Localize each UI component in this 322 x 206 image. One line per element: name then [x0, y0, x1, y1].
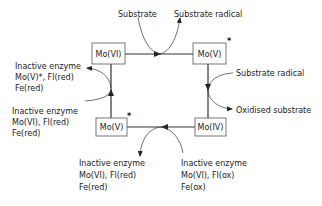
svg-text:Fe(red): Fe(red): [79, 183, 107, 192]
label-substrate-top: Substrate: [118, 10, 157, 19]
svg-text:Inactive enzyme: Inactive enzyme: [181, 159, 247, 168]
label-substrate-radical-right: Substrate radical: [236, 69, 304, 78]
node-mo-vi-top-left: Mo(VI): [92, 43, 125, 64]
svg-text:Inactive enzyme: Inactive enzyme: [79, 159, 145, 168]
curve-bottom: [140, 127, 183, 156]
label-substrate-radical-top: Substrate radical: [174, 10, 242, 19]
svg-text:Mo(VI), Fl(ox): Mo(VI), Fl(ox): [181, 171, 234, 180]
curve-top: [138, 17, 180, 54]
curve-right: [208, 73, 233, 109]
label-inactive-enzyme-left-lower: Inactive enzyme Mo(VI), Fl(red) Fe(red): [12, 107, 78, 138]
node-mo-v-top-right: Mo(V) *: [193, 37, 232, 64]
svg-text:Mo(V)*, Fl(red): Mo(V)*, Fl(red): [15, 73, 74, 82]
curve-left-upper: [87, 68, 111, 88]
svg-text:Fe(red): Fe(red): [12, 129, 40, 138]
svg-text:Inactive enzyme: Inactive enzyme: [12, 107, 78, 116]
label-inactive-enzyme-bottom-left: Inactive enzyme Mo(VI), Fl(red) Fe(red): [79, 159, 145, 192]
label-oxidised-substrate: Oxidised substrate: [236, 106, 311, 115]
node-label: Mo(VI): [96, 50, 122, 59]
radical-star: *: [127, 112, 132, 121]
catalytic-cycle-diagram: Mo(VI) Mo(V) * Mo(IV) Mo(V) * Substrate …: [0, 0, 322, 206]
svg-text:Inactive enzyme: Inactive enzyme: [15, 62, 81, 71]
label-inactive-enzyme-left-upper: Inactive enzyme Mo(V)*, Fl(red) Fe(red): [15, 62, 81, 93]
svg-text:Fe(red): Fe(red): [15, 84, 43, 93]
svg-text:Mo(VI), Fl(red): Mo(VI), Fl(red): [12, 118, 69, 127]
node-label: Mo(V): [198, 50, 222, 59]
node-mo-v-bottom-left: Mo(V) *: [96, 112, 132, 136]
curve-left-lower: [85, 90, 111, 101]
label-inactive-enzyme-bottom-right: Inactive enzyme Mo(VI), Fl(ox) Fe(ox): [181, 159, 247, 192]
node-label: Mo(IV): [198, 123, 224, 132]
svg-text:Mo(VI), Fl(red): Mo(VI), Fl(red): [79, 171, 136, 180]
node-label: Mo(V): [100, 123, 124, 132]
node-mo-iv-bottom-right: Mo(IV): [195, 118, 226, 136]
svg-text:Fe(ox): Fe(ox): [181, 183, 206, 192]
radical-star: *: [227, 37, 232, 46]
